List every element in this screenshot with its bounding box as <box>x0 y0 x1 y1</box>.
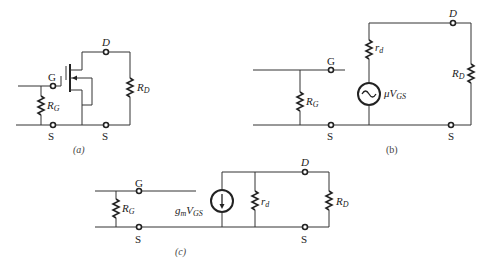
panel-b-circuit <box>253 21 474 128</box>
source-label-b-left: S <box>327 131 333 142</box>
rg-resistor-c <box>113 199 119 218</box>
drain-label-a: D <box>102 37 110 48</box>
rg-label-b: RG <box>306 96 319 107</box>
caption-c: (c) <box>175 247 186 257</box>
source-label-c-left: S <box>135 234 141 245</box>
rd-resistor-b <box>468 64 474 83</box>
caption-b: (b) <box>386 145 398 155</box>
caption-a: (a) <box>73 145 85 155</box>
gate-label-c: G <box>135 178 143 189</box>
rd-resistor-c <box>326 191 332 210</box>
mu-vgs-label-b: μVGS <box>384 88 406 99</box>
gm-vgs-label-c: gmVGS <box>175 205 203 216</box>
circuit-drawings <box>0 0 485 268</box>
rg-resistor-b <box>297 92 303 111</box>
fet-equivalent-circuits-figure: D G S S RG RD (a) D G S S RG RD rd μVGS … <box>0 0 485 268</box>
rd-small-label-c: rd <box>261 196 269 207</box>
gate-label-b: G <box>327 56 335 67</box>
rd-small-resistor-c <box>252 191 258 210</box>
rd-label-a: RD <box>137 82 150 93</box>
source-label-b-right: S <box>448 131 454 142</box>
source-label-a-right: S <box>102 131 108 142</box>
rd-label-c: RD <box>336 196 349 207</box>
rg-label-c: RG <box>122 203 135 214</box>
rd-label-b: RD <box>452 68 465 79</box>
rd-small-resistor-b <box>366 40 372 59</box>
rg-label-a: RG <box>47 100 60 111</box>
rd-resistor-a <box>127 78 133 97</box>
source-label-c-right: S <box>301 234 307 245</box>
drain-label-b: D <box>449 8 457 19</box>
source-label-a-left: S <box>48 131 54 142</box>
gate-label-a: G <box>48 72 56 83</box>
drain-label-c: D <box>301 157 309 168</box>
panel-c-circuit <box>95 170 332 230</box>
panel-a-circuit <box>16 50 133 128</box>
rd-small-label-b: rd <box>375 42 383 53</box>
rg-resistor-a <box>38 96 44 115</box>
